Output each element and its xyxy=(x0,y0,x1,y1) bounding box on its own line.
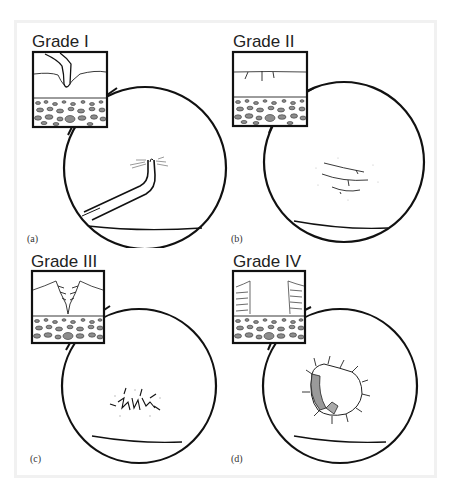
grade-4-illustration xyxy=(228,248,456,497)
panel-grade-3: Grade III ( xyxy=(0,248,228,496)
panel-grade-1: Grade I (a) xyxy=(0,0,228,248)
panel-letter-a: (a) xyxy=(27,233,38,244)
panel-grade-4: Grade IV (d) xyxy=(228,248,456,496)
grade-2-illustration xyxy=(228,0,456,248)
panel-letter-c: (c) xyxy=(30,453,41,464)
panel-grade-2: Grade II (b) xyxy=(228,0,456,248)
panel-letter-d: (d) xyxy=(231,453,243,464)
grade-1-illustration xyxy=(0,0,228,248)
panel-letter-b: (b) xyxy=(231,233,243,244)
